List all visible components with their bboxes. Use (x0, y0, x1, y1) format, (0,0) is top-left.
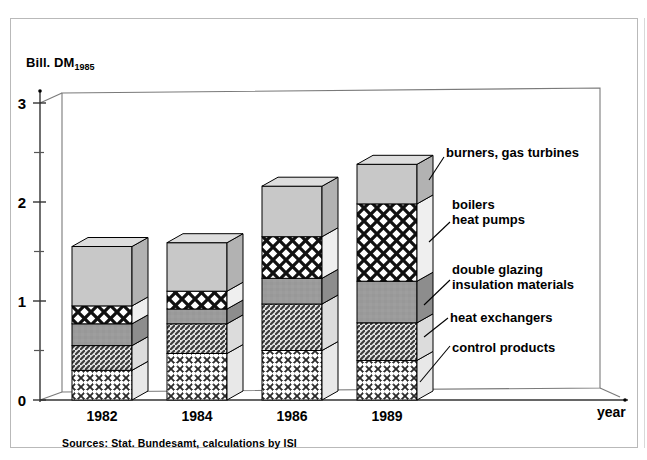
y-axis-title-main: Bill. DM (26, 55, 74, 70)
y-tick-label-1: 1 (8, 293, 26, 310)
x-tick-label-1986: 1986 (257, 408, 327, 424)
legend-label-heat-exchangers: heat exchangers (450, 310, 553, 325)
bar-1986 (262, 177, 338, 400)
x-axis-name: year (597, 404, 626, 420)
y-axis-title: Bill. DM1985 (26, 55, 95, 70)
x-tick-label-1984: 1984 (162, 408, 232, 424)
x-tick-label-1989: 1989 (352, 408, 422, 424)
source-note: Sources: Stat. Bundesamt, calculations b… (62, 437, 297, 449)
bar-1982 (72, 238, 148, 401)
x-axis-end-dot (623, 398, 627, 402)
legend-label-glazing-line1: double glazing (452, 262, 543, 277)
y-tick-label-3: 3 (8, 95, 26, 112)
legend-label-burners: burners, gas turbines (446, 145, 579, 160)
y-axis-title-subscript: 1985 (74, 62, 94, 72)
bar-1989 (357, 155, 433, 400)
y-axis (33, 89, 46, 402)
stacked-bar-chart (0, 0, 647, 460)
bar-1984 (167, 234, 243, 400)
legend-label-boilers-line1: boilers (452, 197, 495, 212)
legend-label-control-products: control products (452, 340, 555, 355)
x-tick-label-1982: 1982 (67, 408, 137, 424)
y-tick-label-2: 2 (8, 194, 26, 211)
y-tick-label-0: 0 (8, 392, 26, 409)
legend-label-glazing-line2: insulation materials (452, 277, 574, 292)
legend-label-boilers-line2: heat pumps (452, 212, 525, 227)
